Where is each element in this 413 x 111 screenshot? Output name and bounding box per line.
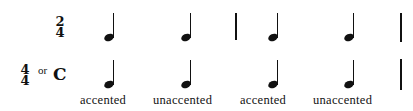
beat-label-accented: accented [240, 93, 286, 108]
quarter-note-icon [181, 13, 195, 41]
beat-label-unaccented: unaccented [313, 93, 372, 108]
quarter-note-icon [268, 60, 282, 88]
time-signature-bottom: 4 [54, 27, 66, 38]
quarter-note-icon [104, 13, 118, 41]
beat-label-unaccented: unaccented [153, 93, 212, 108]
time-signature-bottom: 4 [19, 75, 31, 86]
quarter-note-icon [104, 60, 118, 88]
barline [400, 59, 402, 90]
barline [235, 13, 237, 40]
beat-label-accented: accented [80, 93, 126, 108]
barline [400, 13, 402, 42]
common-time-icon: C [53, 64, 67, 84]
time-signature-4-4: 4 4 [19, 64, 31, 86]
quarter-note-icon [181, 60, 195, 88]
quarter-note-icon [268, 13, 282, 41]
or-text: or [38, 64, 47, 76]
time-signature-2-4: 2 4 [54, 16, 66, 38]
quarter-note-icon [344, 60, 358, 88]
quarter-note-icon [344, 13, 358, 41]
